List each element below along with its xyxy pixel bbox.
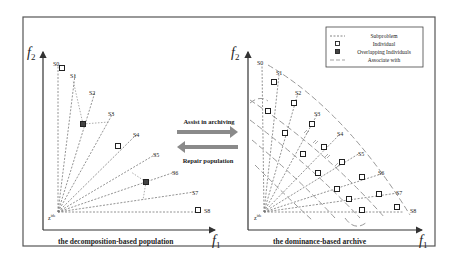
svg-text:S0: S0	[53, 61, 59, 67]
svg-text:S1: S1	[276, 70, 282, 76]
right-panel-title: the dominance-based archive	[273, 237, 367, 246]
repair-arrow-head	[177, 141, 185, 153]
algorithm-diagram: f2 f1 zide S0 S1 S2 S3 S4	[0, 0, 458, 277]
svg-text:S6: S6	[172, 170, 178, 176]
svg-text:S5: S5	[358, 151, 364, 157]
individual-square-icon	[336, 42, 340, 46]
svg-text:S4: S4	[133, 132, 139, 138]
svg-text:S7: S7	[192, 190, 198, 196]
left-subproblem-rays	[58, 66, 196, 212]
svg-text:S0: S0	[257, 60, 263, 66]
legend-overlapping: Overlapping Individuals	[357, 49, 411, 55]
left-association-lines	[73, 80, 146, 200]
svg-text:S4: S4	[337, 131, 343, 137]
overlapping-individual-marker	[81, 122, 86, 127]
left-f1-label: f1	[212, 233, 220, 250]
legend-individual: Individual	[373, 41, 396, 47]
legend-associate: Associate with	[368, 57, 401, 63]
left-origin-label: zide	[48, 213, 56, 221]
svg-text:S1: S1	[70, 73, 76, 79]
legend: Subproblem Individual Overlapping Indivi…	[326, 27, 423, 67]
svg-text:S8: S8	[410, 208, 416, 214]
overlapping-square-icon	[336, 50, 340, 54]
right-origin-label: zide	[254, 213, 262, 221]
individual-marker	[116, 144, 121, 149]
repair-arrow-shaft	[183, 145, 238, 149]
right-f1-label: f1	[419, 233, 427, 250]
svg-text:S7: S7	[396, 190, 402, 196]
svg-text:S2: S2	[295, 90, 301, 96]
individual-marker	[196, 208, 201, 213]
assist-arrow-shaft	[177, 130, 232, 134]
svg-text:S3: S3	[108, 111, 114, 117]
right-f2-label: f2	[231, 45, 239, 62]
individual-marker	[60, 66, 65, 71]
right-individuals	[266, 80, 400, 213]
svg-text:S6: S6	[378, 170, 384, 176]
svg-text:S8: S8	[204, 208, 210, 214]
assist-label: Assist in archiving	[183, 118, 235, 125]
svg-text:S2: S2	[89, 90, 95, 96]
assist-arrow-head	[230, 126, 238, 138]
right-panel: f2 f1 zide	[231, 45, 427, 250]
left-f2-label: f2	[27, 45, 35, 62]
legend-subproblem: Subproblem	[371, 33, 399, 39]
left-subproblem-labels: S0 S1 S2 S3 S4 S5 S6 S7 S8	[53, 61, 210, 214]
svg-text:S3: S3	[314, 111, 320, 117]
left-panel-title: the decomposition-based population	[58, 237, 174, 246]
center-arrows: Assist in archiving Repair population	[177, 118, 238, 164]
repair-label: Repair population	[183, 157, 234, 164]
svg-text:S5: S5	[153, 152, 159, 158]
overlapping-individual-marker	[144, 180, 149, 185]
